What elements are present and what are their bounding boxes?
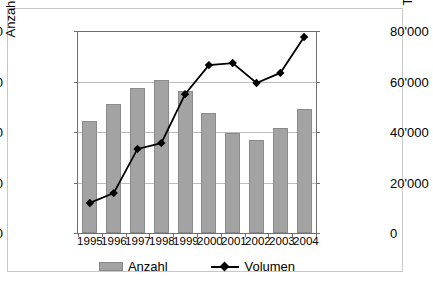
left-axis-tick-label: 600 <box>0 76 3 89</box>
right-axis-tickmark <box>316 132 320 133</box>
bar-2004 <box>297 109 312 233</box>
left-axis-tick-label: 800 <box>0 25 3 38</box>
x-axis-label-1997: 1997 <box>125 236 149 248</box>
bar-series-anzahl <box>78 31 316 233</box>
left-axis-tick-label: 0 <box>0 227 3 240</box>
x-axis-label-1996: 1996 <box>101 236 125 248</box>
bar-slot <box>268 31 292 233</box>
bar-slot <box>102 31 126 233</box>
right-axis-tick-label: 40'000 <box>390 126 433 139</box>
legend-label-anzahl: Anzahl <box>128 259 168 274</box>
bar-1996 <box>106 104 121 233</box>
right-axis-tick-label: 20'000 <box>390 177 433 190</box>
bar-slot <box>221 31 245 233</box>
x-axis-label-1995: 1995 <box>77 236 101 248</box>
right-axis-tickmark <box>316 31 320 32</box>
bar-slot <box>245 31 269 233</box>
bar-2003 <box>273 128 288 233</box>
right-axis-tickmark <box>316 183 320 184</box>
right-axis-tickmark <box>316 82 320 83</box>
legend-item-volumen: Volumen <box>211 259 295 274</box>
bar-slot <box>126 31 150 233</box>
chart-figure-frame: Anzahl Transaktionen Transaktionsvolumen… <box>7 8 403 272</box>
chart-legend: Anzahl Volumen <box>77 259 317 274</box>
x-axis-labels: 1995199619971998199920002001200220032004 <box>77 236 317 248</box>
x-axis-label-2003: 2003 <box>269 236 293 248</box>
bar-slot <box>292 31 316 233</box>
bar-1998 <box>154 80 169 233</box>
bar-slot <box>149 31 173 233</box>
x-axis-label-2004: 2004 <box>293 236 317 248</box>
x-axis-label-2002: 2002 <box>245 236 269 248</box>
x-axis-label-2001: 2001 <box>221 236 245 248</box>
left-axis-tick-label: 400 <box>0 126 3 139</box>
right-axis-tick-label: 60'000 <box>390 76 433 89</box>
right-axis-tick-label: 0 <box>390 227 433 240</box>
bar-2000 <box>201 113 216 233</box>
left-axis-tick-label: 200 <box>0 177 3 190</box>
left-axis-title: Anzahl Transaktionen <box>3 0 18 55</box>
bar-1995 <box>82 121 97 233</box>
legend-label-volumen: Volumen <box>244 259 295 274</box>
bar-swatch-icon <box>99 262 123 271</box>
x-axis-label-2000: 2000 <box>197 236 221 248</box>
legend-item-anzahl: Anzahl <box>99 259 168 274</box>
line-diamond-swatch-icon <box>211 262 239 272</box>
x-axis-label-1998: 1998 <box>149 236 173 248</box>
bar-2002 <box>249 140 264 233</box>
right-axis-tick-label: 80'000 <box>390 25 433 38</box>
bar-2001 <box>225 133 240 233</box>
bar-1999 <box>178 91 193 233</box>
x-axis-label-1999: 1999 <box>173 236 197 248</box>
bar-slot <box>173 31 197 233</box>
plot-area: 0200400600800 020'00040'00060'00080'000 <box>77 31 317 234</box>
bar-slot <box>78 31 102 233</box>
bar-1997 <box>130 88 145 233</box>
bar-slot <box>197 31 221 233</box>
